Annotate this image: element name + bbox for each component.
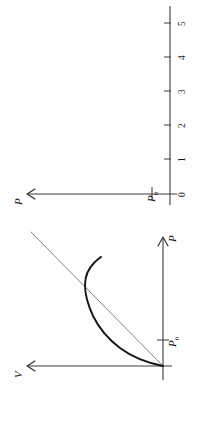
isotherm-curve [85, 257, 163, 366]
tick-label-1: 1 [177, 157, 187, 162]
pv-diagram-panel: V P P0 [12, 232, 181, 380]
figure-canvas: 0 1 2 3 4 5 P0 P [0, 0, 198, 421]
svg-text:P0: P0 [145, 191, 160, 203]
pressure-axis-label: P [12, 198, 24, 206]
volume-axis-label: V [12, 370, 24, 378]
pressure-axis-label-lower: P [166, 235, 178, 243]
p0-label-lower-subscript: 0 [173, 336, 181, 340]
tick-label-2: 2 [177, 123, 187, 128]
svg-text:P: P [166, 235, 178, 243]
pressure-number-line-panel: 0 1 2 3 4 5 P0 P [12, 6, 187, 206]
tick-label-5: 5 [177, 21, 187, 26]
svg-text:P0: P0 [166, 336, 181, 348]
p0-label-upper-subscript: 0 [152, 191, 160, 195]
chord-line [31, 232, 163, 366]
figure-svg: 0 1 2 3 4 5 P0 P [0, 0, 198, 421]
tick-label-4: 4 [177, 55, 187, 60]
p0-label-upper: P0 [145, 191, 160, 203]
svg-text:V: V [12, 370, 24, 378]
tick-label-0: 0 [177, 192, 187, 197]
p0-label-lower: P0 [166, 336, 181, 348]
tick-label-3: 3 [177, 89, 187, 94]
svg-text:P: P [12, 198, 24, 206]
